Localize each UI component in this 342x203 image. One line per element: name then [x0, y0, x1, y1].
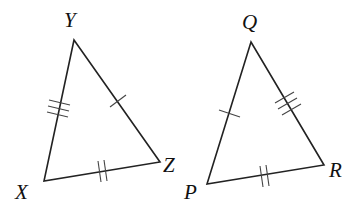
vertex-label-z: Z — [163, 153, 175, 177]
vertex-label-q: Q — [242, 10, 257, 34]
vertex-label-y: Y — [64, 8, 78, 32]
side-qr-triple-tick — [275, 92, 301, 115]
side-pr-double-tick — [260, 165, 269, 187]
congruent-triangles-diagram: Y X Z Q P R — [0, 0, 342, 203]
triangle-xyz — [44, 40, 160, 182]
triangle-pqr-outline — [207, 42, 324, 184]
vertex-label-p: P — [183, 180, 197, 203]
side-yz-single-tick — [110, 95, 126, 107]
vertex-label-x: X — [14, 180, 29, 203]
triangle-xyz-outline — [44, 40, 160, 181]
side-xy-triple-tick — [47, 100, 70, 117]
triangle-pqr — [207, 42, 324, 187]
vertex-label-r: R — [328, 158, 342, 182]
